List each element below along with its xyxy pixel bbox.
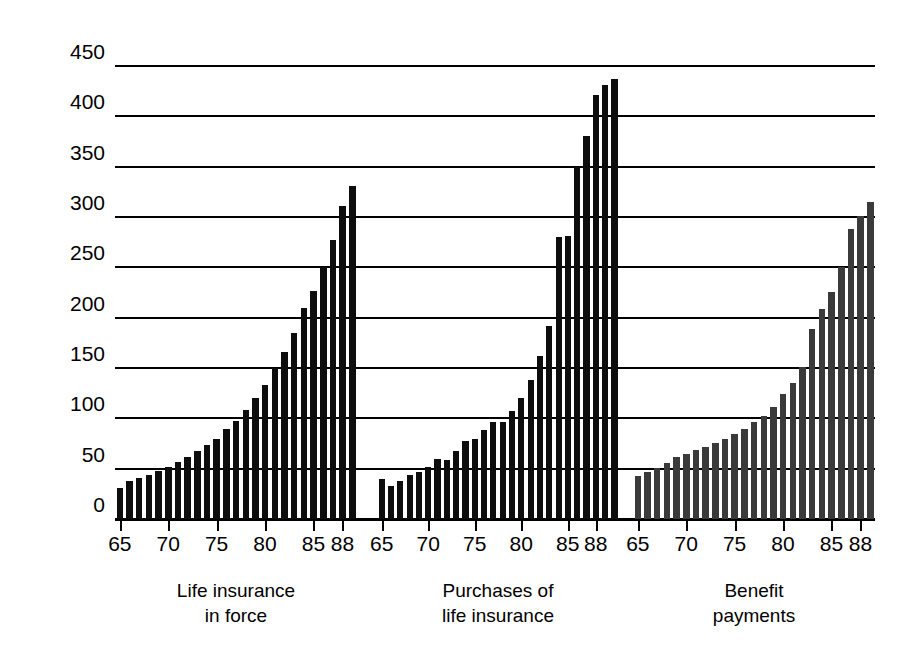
x-axis-ticks-life-insurance-in-force: 657075808588: [115, 519, 357, 531]
bar: [481, 430, 487, 519]
y-axis-tick-label: 300: [43, 192, 105, 213]
x-axis-tick-label: 85: [302, 533, 325, 555]
x-axis-tick-label: 65: [370, 533, 393, 555]
bar: [702, 447, 709, 519]
x-axis-tick: [521, 519, 523, 531]
bar: [339, 206, 346, 519]
bar: [809, 329, 816, 519]
x-axis-tick: [120, 519, 122, 531]
bar: [397, 481, 403, 519]
x-axis-tick-label: 65: [626, 533, 649, 555]
bar: [565, 236, 571, 519]
bar: [136, 478, 143, 519]
x-axis-tick: [638, 519, 640, 531]
bar: [243, 410, 250, 519]
caption-line-2: payments: [633, 603, 875, 628]
bar: [509, 411, 515, 519]
bar: [184, 457, 191, 519]
caption-benefit-payments: Benefitpayments: [633, 578, 875, 628]
bar: [770, 407, 777, 519]
x-axis-tick-label: 80: [510, 533, 533, 555]
bar: [857, 216, 864, 519]
bar: [301, 308, 308, 519]
bar: [593, 95, 599, 519]
y-axis-tick-label: 50: [43, 444, 105, 465]
bar-series-purchases-of-life-insurance: [377, 46, 619, 519]
bar: [867, 202, 874, 519]
bar: [310, 291, 317, 519]
bar: [194, 451, 201, 519]
bar: [272, 368, 279, 519]
bar: [213, 439, 220, 520]
bar: [453, 451, 459, 519]
x-axis-tick-label: 75: [205, 533, 228, 555]
y-axis-tick-label: 450: [43, 41, 105, 62]
bar: [434, 459, 440, 519]
bar: [416, 472, 422, 519]
x-axis-tick: [735, 519, 737, 531]
y-axis-tick-label: 150: [43, 343, 105, 364]
x-axis-tick: [475, 519, 477, 531]
bar: [828, 292, 835, 519]
bar: [379, 479, 385, 519]
bar: [500, 422, 506, 519]
x-axis-tick: [596, 519, 598, 531]
bar: [683, 454, 690, 519]
bar: [602, 85, 608, 519]
bar: [574, 167, 580, 519]
bar: [349, 186, 356, 519]
bar: [518, 398, 524, 519]
bar: [388, 486, 394, 519]
bar: [252, 398, 259, 519]
bar: [126, 481, 133, 519]
bar: [165, 467, 172, 519]
x-axis-tick-label: 70: [675, 533, 698, 555]
bar: [223, 429, 230, 519]
bar: [556, 237, 562, 519]
bar: [799, 367, 806, 519]
bar: [611, 79, 617, 519]
bar: [731, 434, 738, 519]
x-axis-tick-label: 80: [771, 533, 794, 555]
bar: [472, 439, 478, 520]
bar: [444, 460, 450, 519]
panel-purchases-of-life-insurance: 657075808588: [377, 46, 619, 519]
caption-purchases-of-life-insurance: Purchases oflife insurance: [377, 578, 619, 628]
bar: [635, 476, 642, 519]
x-axis-tick: [428, 519, 430, 531]
bar: [761, 416, 768, 519]
y-axis-tick-label: 350: [43, 142, 105, 163]
y-axis-tick-label: 400: [43, 91, 105, 112]
x-axis-tick: [168, 519, 170, 531]
bar: [528, 380, 534, 519]
x-axis-tick: [313, 519, 315, 531]
bar: [425, 467, 431, 519]
bar: [848, 229, 855, 519]
bar: [407, 475, 413, 519]
bar: [673, 457, 680, 519]
x-axis-tick: [342, 519, 344, 531]
x-axis-tick-label: 75: [723, 533, 746, 555]
plot-area: 657075808588657075808588657075808588: [115, 45, 875, 519]
x-axis-tick: [686, 519, 688, 531]
bar: [117, 488, 124, 519]
bar: [146, 475, 153, 519]
caption-life-insurance-in-force: Life insurancein force: [115, 578, 357, 628]
x-axis-tick: [783, 519, 785, 531]
x-axis-ticks-purchases-of-life-insurance: 657075808588: [377, 519, 619, 531]
bar: [644, 472, 651, 519]
y-axis-tick-label: 100: [43, 393, 105, 414]
caption-line-2: in force: [115, 603, 357, 628]
bar: [780, 394, 787, 519]
bar: [330, 240, 337, 519]
bar: [712, 443, 719, 519]
bar: [262, 385, 269, 519]
bar: [741, 429, 748, 519]
x-axis-tick-label: 88: [584, 533, 607, 555]
caption-line-1: Benefit: [633, 578, 875, 603]
x-axis-tick-label: 85: [820, 533, 843, 555]
x-axis-tick-label: 85: [556, 533, 579, 555]
x-axis-tick-label: 88: [849, 533, 872, 555]
x-axis-tick: [382, 519, 384, 531]
bar: [654, 468, 661, 519]
